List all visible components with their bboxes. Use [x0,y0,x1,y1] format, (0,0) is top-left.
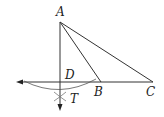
label-c: C [146,85,155,99]
label-d: D [64,68,75,82]
geometry-diagram: A D B C T [0,0,164,117]
label-a: A [55,5,65,19]
left-arrow-icon [16,80,23,85]
down-arrow-icon [58,104,63,111]
label-t: T [70,92,79,106]
label-b: B [93,85,103,99]
